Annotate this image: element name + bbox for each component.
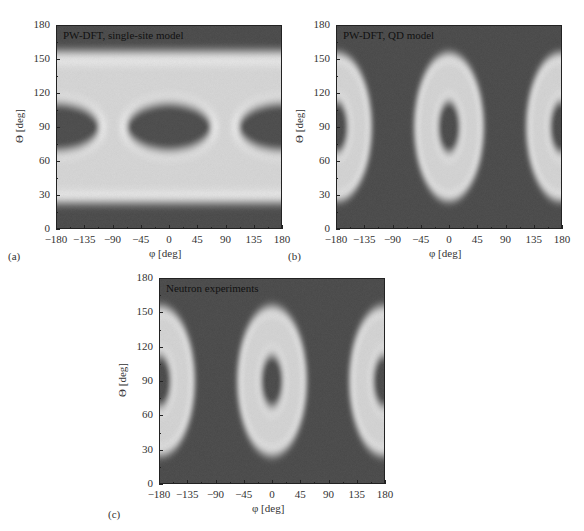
x-tick-mark <box>272 480 273 484</box>
x-minor-tick <box>155 227 156 229</box>
x-tick-label: 45 <box>285 488 315 500</box>
x-tick-mark <box>282 225 283 229</box>
x-tick-mark <box>421 225 422 229</box>
x-tick-label: 90 <box>314 488 344 500</box>
y-tick-label: 60 <box>26 154 50 166</box>
y-minor-tick <box>159 433 161 434</box>
x-minor-tick <box>268 227 269 229</box>
y-tick-label: 120 <box>129 340 153 352</box>
y-tick-mark <box>159 484 163 485</box>
x-tick-label: 135 <box>239 233 269 245</box>
x-tick-mark <box>56 225 57 229</box>
x-tick-mark <box>534 225 535 229</box>
y-tick-mark <box>336 229 340 230</box>
x-tick-label: 135 <box>342 488 372 500</box>
y-tick-mark <box>56 93 60 94</box>
x-tick-mark <box>336 225 337 229</box>
y-axis-label: Θ [deg] <box>293 101 305 151</box>
x-tick-label: −180 <box>41 233 71 245</box>
x-tick-mark <box>562 225 563 229</box>
x-tick-label: 135 <box>519 233 549 245</box>
x-tick-label: 180 <box>547 233 577 245</box>
y-tick-mark <box>56 59 60 60</box>
y-minor-tick <box>159 295 161 296</box>
y-tick-mark <box>56 25 60 26</box>
x-tick-label: −45 <box>406 233 436 245</box>
y-minor-tick <box>56 144 58 145</box>
y-minor-tick <box>56 110 58 111</box>
x-minor-tick <box>258 482 259 484</box>
x-minor-tick <box>463 227 464 229</box>
y-tick-label: 60 <box>129 408 153 420</box>
x-tick-mark <box>169 225 170 229</box>
y-tick-label: 120 <box>26 86 50 98</box>
x-minor-tick <box>378 227 379 229</box>
plot-title: Neutron experiments <box>166 282 259 294</box>
x-tick-mark <box>226 225 227 229</box>
y-tick-mark <box>159 381 163 382</box>
x-tick-mark <box>216 480 217 484</box>
y-tick-label: 180 <box>26 18 50 30</box>
y-minor-tick <box>56 178 58 179</box>
x-minor-tick <box>70 227 71 229</box>
y-tick-mark <box>56 127 60 128</box>
y-minor-tick <box>336 76 338 77</box>
x-tick-label: 0 <box>257 488 287 500</box>
y-tick-mark <box>56 161 60 162</box>
x-tick-label: 45 <box>182 233 212 245</box>
y-minor-tick <box>159 330 161 331</box>
x-tick-mark <box>113 225 114 229</box>
x-tick-mark <box>506 225 507 229</box>
y-tick-mark <box>159 347 163 348</box>
y-tick-label: 60 <box>306 154 330 166</box>
y-tick-label: 90 <box>129 374 153 386</box>
heatmap-plot-a: PW-DFT, single-site model <box>56 25 282 229</box>
panel-letter: (b) <box>288 250 301 262</box>
x-minor-tick <box>548 227 549 229</box>
y-tick-label: 90 <box>306 120 330 132</box>
x-tick-label: −90 <box>98 233 128 245</box>
x-tick-label: 90 <box>211 233 241 245</box>
x-minor-tick <box>201 482 202 484</box>
y-tick-label: 150 <box>26 52 50 64</box>
y-tick-label: 120 <box>306 86 330 98</box>
x-tick-label: −90 <box>378 233 408 245</box>
x-tick-label: 180 <box>267 233 297 245</box>
heatmap-image <box>337 26 561 228</box>
x-minor-tick <box>343 482 344 484</box>
x-minor-tick <box>230 482 231 484</box>
y-minor-tick <box>56 42 58 43</box>
x-tick-label: 90 <box>491 233 521 245</box>
heatmap-image <box>57 26 281 228</box>
y-tick-mark <box>336 25 340 26</box>
x-tick-mark <box>393 225 394 229</box>
heatmap-plot-b: PW-DFT, QD model <box>336 25 562 229</box>
y-tick-mark <box>56 195 60 196</box>
x-minor-tick <box>371 482 372 484</box>
y-minor-tick <box>336 144 338 145</box>
y-tick-mark <box>159 312 163 313</box>
plot-title: PW-DFT, QD model <box>343 29 434 41</box>
x-minor-tick <box>435 227 436 229</box>
y-minor-tick <box>56 212 58 213</box>
y-tick-label: 30 <box>129 443 153 455</box>
x-tick-label: −45 <box>229 488 259 500</box>
x-minor-tick <box>98 227 99 229</box>
x-axis-label: φ [deg] <box>429 247 461 259</box>
panel-letter: (c) <box>108 508 120 520</box>
x-minor-tick <box>407 227 408 229</box>
x-minor-tick <box>240 227 241 229</box>
heatmap-plot-c: Neutron experiments <box>159 278 385 484</box>
x-tick-mark <box>357 480 358 484</box>
y-tick-mark <box>336 127 340 128</box>
x-minor-tick <box>520 227 521 229</box>
x-tick-label: −135 <box>172 488 202 500</box>
y-tick-label: 150 <box>129 305 153 317</box>
plot-title: PW-DFT, single-site model <box>63 29 183 41</box>
y-tick-label: 90 <box>26 120 50 132</box>
x-tick-mark <box>187 480 188 484</box>
x-tick-mark <box>477 225 478 229</box>
x-tick-label: −135 <box>349 233 379 245</box>
x-tick-mark <box>385 480 386 484</box>
y-minor-tick <box>159 364 161 365</box>
